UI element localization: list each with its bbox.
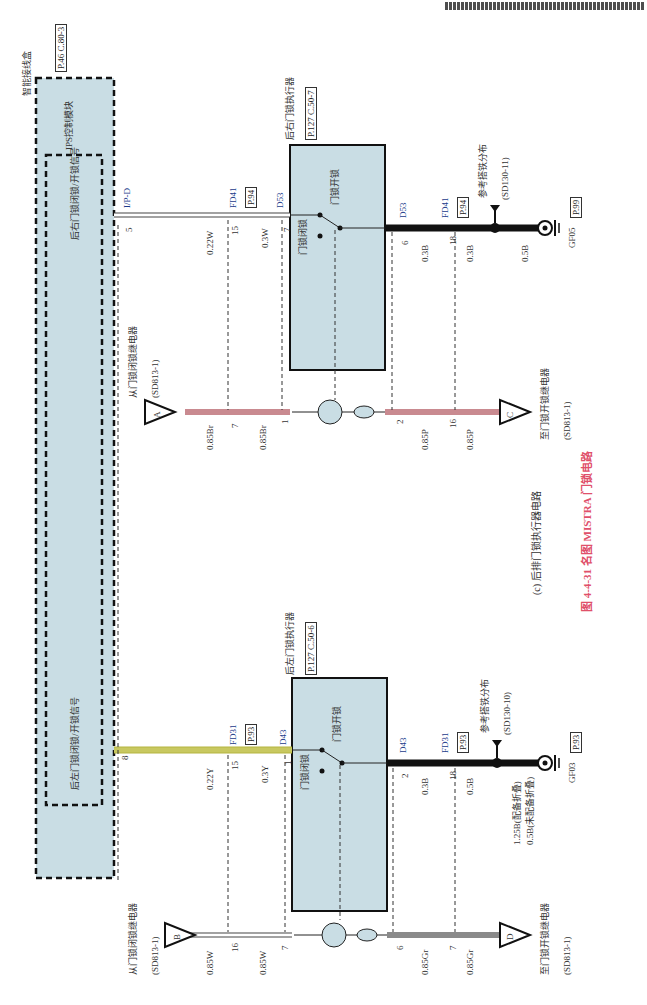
relay-c-name: 至门锁开锁继电器 [540,368,550,440]
relay-c-tag: C [505,412,515,418]
wire-0-85gr: 0.85Gr [420,950,430,975]
wire-0-3b-l: 0.3B [420,778,430,795]
pin-15-y: 15 [230,761,240,770]
relay-b-tag: B [172,934,182,940]
d53-in: D53 [275,193,285,209]
wire-0-85w: 0.85W [205,951,215,975]
pin-1-sig: 1 [283,761,293,766]
pin-15: 15 [230,226,240,235]
ground-gf03: GF03 [567,762,577,783]
switch-close-label-l: 门锁闭锁 [300,754,310,790]
wire-0-85w-2: 0.85W [258,951,268,975]
wire-0-22w: 0.22W [205,231,215,255]
relay-d-name: 至门锁开锁继电器 [540,903,550,975]
fd31-gnd: FD31 [440,732,450,753]
d43-out: D43 [398,738,408,754]
relay-a-name: 从门锁闭锁继电器 [128,326,138,398]
pin-18: 18 [448,236,458,245]
ground-gf05: GF05 [567,227,577,248]
gf03-ref: P.93 [565,732,583,753]
wire-0-85br: 0.85Br [205,425,215,450]
splice-point-icon [490,223,500,233]
wire-0-3y: 0.3Y [260,765,270,783]
wire-0-85p-2: 0.85P [465,429,475,450]
fd41-gnd: FD41 [440,197,450,218]
right-pin: 5 [124,228,134,233]
left-pin: 8 [120,756,130,761]
wire-0-3b: 0.3B [420,245,430,262]
right-signal-label: 后右门锁闭锁/开锁信号 [70,147,80,240]
d43-in: D43 [278,730,288,746]
switch-open-label: 门锁开锁 [330,169,340,205]
pin-2: 2 [395,420,405,425]
right-actuator-ref: P.127 C.50-7 [300,87,318,140]
caption-main: 图 4-4-31 名图 MISTRA 门锁电路 [578,451,594,612]
wiring-diagram [0,0,647,1005]
left-signal-label: 后左门锁闭锁/开锁信号 [70,697,80,790]
module-name: 智能接线盒 [22,51,32,96]
left-actuator-name: 后左门锁执行器 [285,612,295,675]
relay-c-ref: (SD813-1) [562,402,572,441]
pin-6: 6 [400,241,410,246]
wire-0-5b-l: 0.5B [465,778,475,795]
fd41-ref: P.94 [240,187,258,208]
switch-open-label-l: 门锁开锁 [332,706,342,742]
fd31-gnd-ref: P.93 [452,732,470,753]
wire-0-5b: 0.5B [520,245,530,262]
splice-ref: 参考搭铁分布 [478,144,488,198]
fd31-connector: FD31 [228,724,238,745]
relay-d-tag: D [505,934,515,941]
splice-ref-l: 参考搭铁分布 [480,679,490,733]
wire-0-3b-2: 0.3B [465,245,475,262]
fd41-connector: FD41 [228,187,238,208]
pin-1: 1 [280,420,290,425]
splice-code-l: (SD130-10) [502,692,512,735]
d53-out: D53 [398,203,408,219]
pin-2-gnd: 2 [400,774,410,779]
right-actuator-name: 后右门锁执行器 [285,77,295,140]
module-ref: P.46 C.80-3 [50,24,68,72]
relay-a-ref: (SD813-1) [150,360,160,399]
switch-close-label: 门锁闭锁 [298,219,308,255]
wire-0-3w: 0.3W [260,228,270,248]
pin-16: 16 [448,419,458,428]
splice-point-icon [492,758,502,768]
relay-b-ref: (SD813-1) [150,937,160,976]
wire-0-85gr-2: 0.85Gr [465,950,475,975]
pin-6-motor: 6 [395,946,405,951]
wire-0-85p: 0.85P [420,429,430,450]
pin-7-br: 7 [230,424,240,429]
relay-a-tag: A [152,412,162,419]
wire-0-85br-2: 0.85Br [258,425,268,450]
pin-16-w: 16 [230,943,240,952]
right-connector-id: I/P-D [122,188,132,208]
gf05-ref: P.99 [565,197,583,218]
wire-0-22y: 0.22Y [205,768,215,790]
fd31-ref: P.93 [240,724,258,745]
fd41-gnd-ref: P.94 [452,197,470,218]
relay-b-name: 从门锁闭锁继电器 [128,903,138,975]
ips-module-label: IPS控制模块 [64,101,74,150]
left-actuator-ref: P.127 C.50-6 [300,622,318,675]
pin-18-l: 18 [448,771,458,780]
relay-d-ref: (SD813-1) [562,937,572,976]
pin-7: 7 [282,228,292,233]
splice-code: (SD130-11) [500,157,510,200]
note-no-folding: 0.5B(未配备折叠) [525,777,535,845]
pin-7-gr: 7 [448,946,458,951]
pin-7-motor: 7 [280,946,290,951]
caption-sub: (c) 后排门锁执行器电路 [528,491,543,595]
note-folding: 1.25B(配备折叠) [512,781,522,845]
